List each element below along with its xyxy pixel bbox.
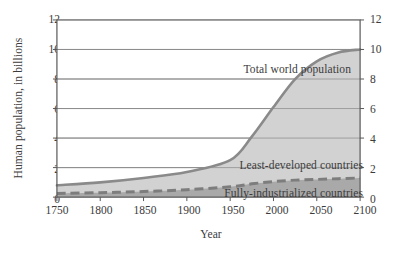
series-annotation-label: Total world population (244, 63, 351, 75)
x-tick-label: 1950 (208, 203, 258, 217)
x-tick-label: 1800 (76, 203, 126, 217)
series-annotation-label: Least-developed countries (239, 159, 363, 171)
y-tick-label-right: 6 (370, 102, 402, 116)
x-tick-label: 2050 (296, 203, 346, 217)
y-tick-label-right: 10 (370, 42, 402, 56)
x-tick-label: 2100 (340, 203, 390, 217)
plot-area (57, 19, 365, 199)
y-tick-label-right: 2 (370, 162, 402, 176)
y-tick-label-right: 12 (370, 12, 402, 26)
series-annotation-label: Fully-industrialized countries (224, 187, 363, 199)
x-tick-label: 1750 (32, 203, 82, 217)
x-tick-label: 2000 (252, 203, 302, 217)
x-tick-label: 1850 (120, 203, 170, 217)
population-growth-chart: Human population, in billions Year 02468… (0, 0, 402, 255)
x-tick-label: 1900 (164, 203, 214, 217)
x-axis-title: Year (57, 228, 365, 240)
y-tick-label-right: 8 (370, 72, 402, 86)
chart-svg (52, 18, 366, 204)
y-tick-label-right: 4 (370, 132, 402, 146)
